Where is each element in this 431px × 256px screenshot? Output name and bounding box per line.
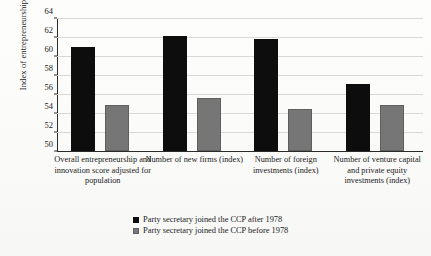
bar-after-1978[interactable]: [163, 36, 187, 151]
bar-group: [240, 18, 332, 151]
y-tick-label: 50: [45, 139, 54, 148]
bar-before-1978[interactable]: [197, 98, 221, 151]
y-tick-label: 52: [45, 120, 54, 129]
bar-before-1978[interactable]: [380, 105, 404, 151]
bar-after-1978[interactable]: [254, 39, 278, 151]
x-category-label: Number of venture capital and private eq…: [328, 155, 428, 187]
x-axis-labels: Overall entrepreneurship and innovation …: [57, 155, 423, 205]
y-tick-label: 64: [45, 6, 54, 15]
x-category-label: Number of new firms (index): [145, 155, 245, 166]
x-axis-line: [57, 151, 423, 152]
x-category-label: Number of foreign investments (index): [236, 155, 336, 176]
bar-group: [149, 18, 241, 151]
legend-item[interactable]: Party secretary joined the CCP after 197…: [133, 214, 288, 225]
y-axis-title: Index of entrepreneurship: [18, 0, 28, 115]
bar-after-1978[interactable]: [71, 47, 95, 152]
x-category-label: Overall entrepreneurship and innovation …: [53, 155, 153, 187]
legend-item[interactable]: Party secretary joined the CCP before 19…: [133, 225, 288, 236]
legend-swatch-icon: [133, 228, 139, 234]
legend-swatch-icon: [133, 217, 139, 223]
bar-group: [332, 18, 424, 151]
chart-legend: Party secretary joined the CCP after 197…: [133, 214, 288, 236]
bar-chart: Index of entrepreneurship 50525456586062…: [0, 0, 431, 256]
legend-label: Party secretary joined the CCP after 197…: [143, 215, 282, 224]
y-tick-label: 62: [45, 25, 54, 34]
plot-area: 5052545658606264: [57, 18, 423, 152]
y-tick-label: 56: [45, 82, 54, 91]
bar-after-1978[interactable]: [346, 84, 370, 151]
bar-before-1978[interactable]: [105, 105, 129, 151]
y-tick-label: 60: [45, 44, 54, 53]
bar-before-1978[interactable]: [288, 109, 312, 151]
legend-label: Party secretary joined the CCP before 19…: [143, 226, 288, 235]
bar-group: [57, 18, 149, 151]
y-tick-label: 58: [45, 63, 54, 72]
y-tick-label: 54: [45, 101, 54, 110]
